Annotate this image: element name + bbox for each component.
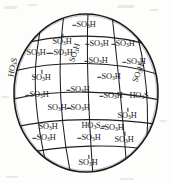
scan-speck	[28, 4, 37, 6]
sulfonic-group-label: SO3H	[47, 104, 66, 112]
sulfonic-group-label: HO3S	[81, 122, 100, 130]
sulfonic-group-label: SO3H	[81, 134, 100, 142]
sulfonic-group-label: HO3S	[129, 92, 148, 100]
sulfonic-group-label: SO3H	[89, 40, 108, 48]
sulfonic-group-label: SO3H	[103, 92, 122, 100]
sulfonic-group-label: SO3H	[101, 73, 120, 81]
sulfonic-group-label: SO3H	[26, 49, 45, 57]
sulfonic-group-label: SO3H	[36, 134, 55, 142]
scan-speck	[4, 6, 17, 9]
scan-speck	[6, 176, 18, 178]
sulfonic-group-label: SO3H	[38, 123, 57, 131]
sulfonic-group-label: SO3H	[70, 86, 89, 94]
scan-speck	[118, 5, 134, 8]
sulfonic-group-label: SO3H	[31, 74, 50, 82]
sulfonic-group-label: SO3H	[70, 104, 89, 112]
group-label-layer: SO3HSO3HSO3HSO3HSO3HSO3HSO3HSO3HSO3HHO3S…	[0, 0, 171, 183]
scan-speck	[160, 120, 167, 122]
sulfonic-group-label: HO3S	[7, 57, 19, 78]
sulfonic-group-label: SO3H	[115, 40, 134, 48]
sulfonic-group-label: SO3H	[88, 57, 107, 65]
scan-speck	[120, 178, 134, 180]
scan-speck	[2, 96, 9, 98]
sulfonated-sphere-figure: SO3HSO3HSO3HSO3HSO3HSO3HSO3HSO3HSO3HHO3S…	[0, 0, 171, 183]
sulfonic-group-label: SO3H	[29, 91, 48, 99]
sulfonic-group-label: SO3H	[52, 38, 71, 46]
sulfonic-group-label: SO3H	[76, 21, 95, 29]
scan-speck	[150, 9, 158, 11]
sulfonic-group-label: SO3H	[114, 136, 133, 144]
sulfonic-group-label: SO3H	[104, 124, 123, 132]
sulfonic-group-label: SO3H	[78, 159, 97, 167]
sulfonic-group-label: SO3H	[117, 112, 136, 120]
